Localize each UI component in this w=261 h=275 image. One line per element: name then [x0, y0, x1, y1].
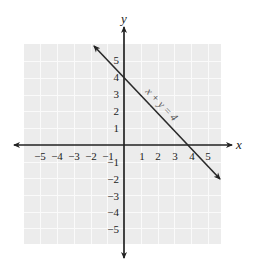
- svg-text:−2: −2: [107, 173, 119, 185]
- svg-text:−5: −5: [107, 223, 119, 235]
- svg-text:−4: −4: [51, 150, 63, 162]
- svg-text:1: 1: [114, 122, 120, 134]
- svg-text:−5: −5: [34, 150, 46, 162]
- y-axis-label: y: [119, 11, 127, 26]
- svg-text:−2: −2: [85, 150, 97, 162]
- svg-text:2: 2: [114, 105, 120, 117]
- svg-text:−4: −4: [107, 206, 119, 218]
- svg-text:2: 2: [155, 150, 161, 162]
- svg-text:5: 5: [205, 150, 211, 162]
- coordinate-plane: x y −5 −4 −3 −2 −1 1 2 3 4 5 5 4 3 2 1 −…: [0, 0, 261, 275]
- svg-text:−3: −3: [68, 150, 80, 162]
- svg-text:3: 3: [172, 150, 178, 162]
- svg-text:−1: −1: [107, 156, 119, 168]
- svg-text:1: 1: [139, 150, 145, 162]
- x-axis-label: x: [235, 137, 242, 152]
- svg-text:−3: −3: [107, 190, 119, 202]
- svg-text:3: 3: [114, 88, 120, 100]
- svg-text:5: 5: [114, 54, 120, 66]
